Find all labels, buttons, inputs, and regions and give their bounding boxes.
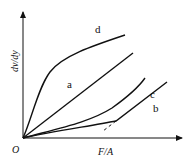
x-axis-label: F/A	[97, 146, 114, 157]
y-axis-label: dv/dy	[9, 50, 20, 72]
curve-a	[23, 53, 133, 138]
curve-label-b: b	[153, 102, 159, 114]
curve-b	[23, 82, 167, 138]
origin-label: O	[12, 144, 19, 155]
curve-label-a: a	[67, 78, 72, 90]
flow-curve-diagram: d a c b O F/A dv/dy	[0, 0, 191, 162]
curve-label-c: c	[150, 88, 155, 100]
curve-label-d: d	[95, 23, 101, 35]
